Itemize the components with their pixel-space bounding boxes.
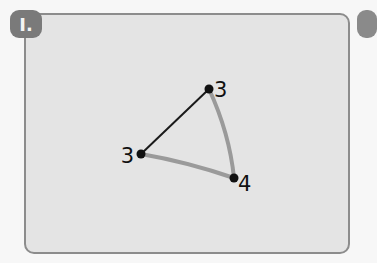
node-left <box>137 150 146 159</box>
edge-top-left <box>141 89 209 154</box>
node-top <box>205 85 214 94</box>
node-label-top: 3 <box>214 78 227 102</box>
edge-top-bottom-right <box>209 89 234 178</box>
node-label-bottom-right: 4 <box>238 172 251 196</box>
node-label-left: 3 <box>121 144 134 168</box>
edge-left-bottom-right <box>141 154 234 178</box>
